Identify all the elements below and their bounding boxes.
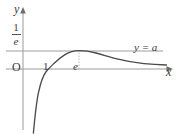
function-graph-figure: y x O 1 e y = a 1 e: [0, 0, 178, 134]
horizontal-line-label: y = a: [134, 42, 157, 53]
function-curve: [33, 51, 166, 133]
fraction-denominator: e: [10, 35, 22, 47]
x-axis-label: x: [166, 66, 171, 78]
origin-label: O: [12, 61, 21, 73]
fraction-numerator: 1: [10, 22, 22, 34]
x-tick-label-1: 1: [43, 61, 49, 72]
plot-canvas: [0, 0, 178, 134]
x-tick-label-e: e: [73, 61, 78, 72]
y-axis-arrow-icon: [20, 7, 26, 14]
y-tick-label-one-over-e: 1 e: [10, 22, 22, 47]
y-axis-label: y: [14, 3, 19, 15]
